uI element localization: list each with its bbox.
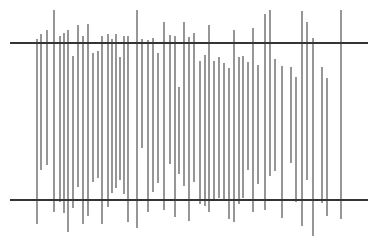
- figure-container: [0, 0, 378, 247]
- line-segment-chart: [0, 0, 378, 247]
